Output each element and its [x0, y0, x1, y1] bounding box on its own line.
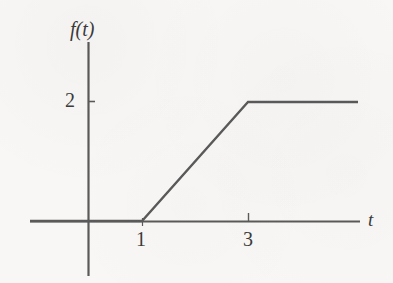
function-curve: [30, 102, 358, 221]
figure-canvas: f(t) t 2 1 3: [0, 0, 393, 283]
y-axis-label: f(t): [70, 19, 94, 39]
x-tick-label-1: 1: [136, 229, 146, 249]
x-tick-label-3: 3: [243, 229, 253, 249]
x-axis-label: t: [368, 210, 373, 229]
y-tick-label-2: 2: [65, 90, 75, 110]
plot-area: [0, 0, 393, 283]
